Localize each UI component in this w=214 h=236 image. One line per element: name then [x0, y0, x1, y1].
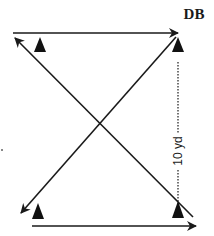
drill-diagram: DB 10 yd: [0, 0, 214, 236]
cone-bottom-left-icon: [32, 203, 44, 219]
cone-bottom-right-icon: [172, 201, 184, 218]
defender-label: DB: [184, 6, 205, 22]
diagonal-drop-arrow: [21, 37, 176, 213]
cone-top-left-icon: [34, 37, 46, 52]
distance-label: 10 yd: [171, 136, 185, 165]
edge-mark: [1, 149, 3, 151]
